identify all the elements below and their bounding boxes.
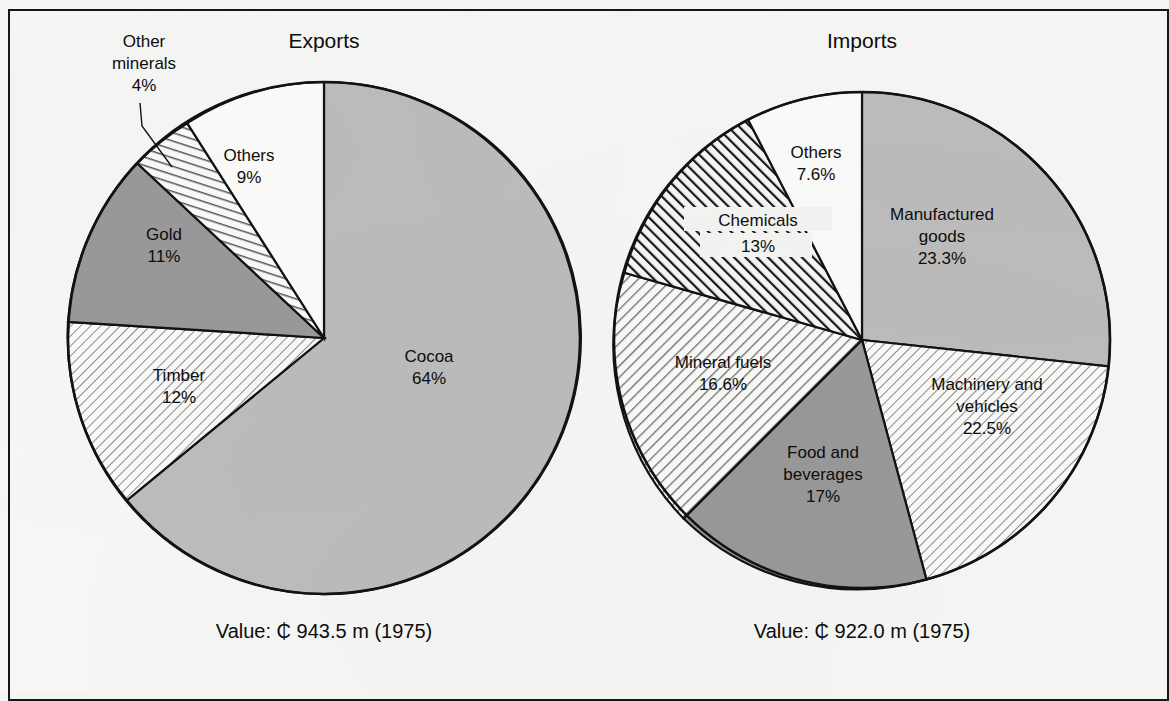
figure-border bbox=[8, 9, 1169, 701]
